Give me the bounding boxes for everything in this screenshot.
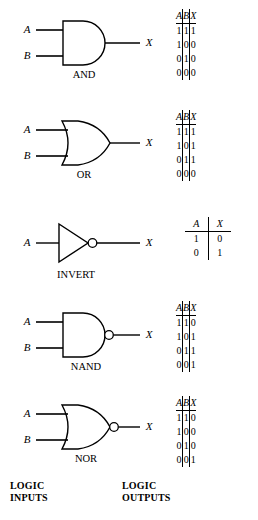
- cell-b: 0: [183, 38, 190, 52]
- table-row: 0 0 1: [176, 358, 196, 372]
- output-label-x: X: [145, 236, 154, 248]
- cell-b: 1: [183, 344, 190, 358]
- table-header-row: A X: [185, 217, 231, 232]
- column-header-x: X: [190, 110, 197, 125]
- input-label-a: A: [23, 315, 31, 327]
- table-row: 1 0 1: [176, 139, 196, 153]
- cell-a: 0: [176, 52, 183, 66]
- cell-b: 0: [183, 425, 190, 439]
- table-row: 0 0 0: [176, 167, 196, 181]
- input-label-a: A: [23, 236, 31, 248]
- truth-table-invert: A X 1 0 0 1: [185, 217, 231, 260]
- cell-a: 1: [176, 125, 183, 140]
- input-label-a: A: [23, 407, 31, 419]
- cell-a: 1: [176, 316, 183, 331]
- table-row: 0 1 0: [176, 439, 196, 453]
- gate-symbol-invert: A X INVERT: [0, 208, 165, 284]
- gate-name-label: AND: [73, 69, 96, 80]
- cell-x: 1: [190, 358, 197, 372]
- inversion-bubble-icon: [110, 423, 119, 432]
- cell-b: 0: [183, 330, 190, 344]
- cell-b: 0: [183, 167, 190, 181]
- gate-name-label: NOR: [75, 453, 97, 464]
- gate-block-nor: A B X NOR: [0, 392, 165, 468]
- cell-a: 0: [176, 167, 183, 181]
- column-header-b: B: [183, 301, 190, 316]
- caption-line-2: OUTPUTS: [122, 492, 171, 504]
- output-label-x: X: [145, 328, 154, 340]
- or-gate-body: [62, 121, 110, 165]
- table-row: 1 1 1: [176, 125, 196, 140]
- gate-symbol-nor: A B X NOR: [0, 392, 165, 468]
- table-row: 0 0 1: [176, 453, 196, 467]
- table-header-row: A B X: [176, 110, 196, 125]
- cell-a: 1: [176, 425, 183, 439]
- cell-x: 0: [190, 425, 197, 439]
- gate-block-invert: A X INVERT: [0, 208, 165, 284]
- column-header-x: X: [190, 301, 197, 316]
- table-row: 1 0 0: [176, 38, 196, 52]
- column-header-b: B: [183, 9, 190, 24]
- table-header-row: A B X: [176, 9, 196, 24]
- gate-name-label: INVERT: [57, 269, 95, 280]
- cell-x: 0: [190, 52, 197, 66]
- truth-table-nor: A B X 1 1 0 1 0 0 0 1 0 0 0: [176, 396, 196, 467]
- truth-table-nand: A B X 1 1 0 1 0 1 0 1 1 0 0: [176, 301, 196, 372]
- cell-b: 1: [183, 316, 190, 331]
- cell-x: 0: [190, 167, 197, 181]
- gate-name-label: OR: [77, 169, 92, 180]
- cell-x: 1: [190, 453, 197, 467]
- input-label-a: A: [23, 123, 31, 135]
- and-gate-body: [63, 21, 105, 65]
- truth-table-or: A B X 1 1 1 1 0 1 0 1 1 0 0: [176, 110, 196, 181]
- cell-x: 0: [208, 232, 231, 247]
- cell-x: 0: [190, 316, 197, 331]
- gate-symbol-and: A B X AND: [0, 8, 165, 84]
- table-row: 0 1 1: [176, 344, 196, 358]
- column-header-b: B: [183, 110, 190, 125]
- cell-a: 0: [176, 453, 183, 467]
- cell-a: 0: [185, 246, 208, 260]
- table-header-row: A B X: [176, 396, 196, 411]
- table-row: 1 1 0: [176, 411, 196, 426]
- gate-block-or: A B X OR: [0, 108, 165, 184]
- cell-b: 1: [183, 439, 190, 453]
- table-row: 1 1 0: [176, 316, 196, 331]
- column-header-a: A: [185, 217, 208, 232]
- or-gate-body: [62, 405, 110, 449]
- table-row: 1 1 1: [176, 24, 196, 39]
- cell-x: 1: [190, 153, 197, 167]
- table-row: 0 1 0: [176, 52, 196, 66]
- caption-logic-outputs: LOGIC OUTPUTS: [122, 480, 171, 504]
- table-row: 1 0 1: [176, 330, 196, 344]
- cell-a: 0: [176, 439, 183, 453]
- cell-x: 0: [190, 439, 197, 453]
- cell-x: 0: [190, 66, 197, 80]
- gate-block-nand: A B X NAND: [0, 300, 165, 376]
- table-row: 0 1: [185, 246, 231, 260]
- input-label-b: B: [24, 149, 31, 161]
- cell-b: 0: [183, 66, 190, 80]
- gate-name-label: NAND: [71, 361, 102, 372]
- caption-line-2: INPUTS: [10, 492, 48, 504]
- cell-a: 1: [176, 139, 183, 153]
- inversion-bubble-icon: [105, 331, 114, 340]
- table-row: 0 1 1: [176, 153, 196, 167]
- input-label-a: A: [23, 23, 31, 35]
- caption-line-1: LOGIC: [122, 480, 171, 492]
- cell-a: 0: [176, 358, 183, 372]
- cell-b: 0: [183, 139, 190, 153]
- table-row: 1 0: [185, 232, 231, 247]
- input-label-b: B: [24, 341, 31, 353]
- cell-x: 1: [208, 246, 231, 260]
- column-header-x: X: [190, 396, 197, 411]
- cell-a: 0: [176, 66, 183, 80]
- column-header-a: A: [176, 301, 183, 316]
- cell-b: 1: [183, 411, 190, 426]
- column-header-a: A: [176, 110, 183, 125]
- column-header-x: X: [208, 217, 231, 232]
- cell-b: 0: [183, 453, 190, 467]
- gate-block-and: A B X AND: [0, 8, 165, 84]
- output-label-x: X: [145, 136, 154, 148]
- column-header-a: A: [176, 396, 183, 411]
